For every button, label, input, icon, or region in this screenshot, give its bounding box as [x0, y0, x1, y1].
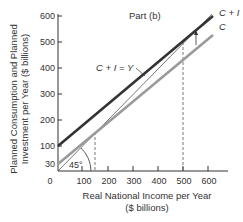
x-tick-500: 500	[176, 176, 191, 186]
x-axis-label-line1: Real National Income per Year	[83, 190, 212, 201]
x-tick-400: 400	[151, 176, 166, 186]
y-axis-label-line1: Planned Consumption and Planned	[8, 24, 19, 173]
x-tick-300: 300	[126, 176, 141, 186]
y-tick-300: 300	[40, 89, 55, 99]
y-tick-30: 30	[45, 159, 55, 169]
y-tick-400: 400	[40, 63, 55, 73]
y-tick-200: 200	[40, 115, 55, 125]
ciy-leader	[136, 68, 145, 76]
c-plus-i-label: C + I	[219, 7, 240, 18]
y-tick-100: 100	[40, 141, 55, 151]
x-axis-label-line2: ($ billions)	[125, 202, 168, 213]
part-label: Part (b)	[129, 10, 161, 21]
c-plus-i-line	[58, 16, 213, 146]
origin-label: 0	[47, 176, 52, 186]
y-tick-600: 600	[40, 11, 55, 21]
chart: Planned Consumption and Planned Investme…	[0, 0, 243, 222]
c-line	[58, 35, 213, 164]
x-tick-600: 600	[201, 176, 216, 186]
x-tick-100: 100	[76, 176, 91, 186]
ciy-label: C + I = Y	[96, 62, 134, 73]
y-tick-500: 500	[40, 37, 55, 47]
y-axis-label-line2: Investment per Year ($ billions)	[19, 34, 30, 164]
angle-label: 45°	[69, 160, 83, 170]
c-label: C	[219, 21, 226, 32]
x-tick-200: 200	[101, 176, 116, 186]
